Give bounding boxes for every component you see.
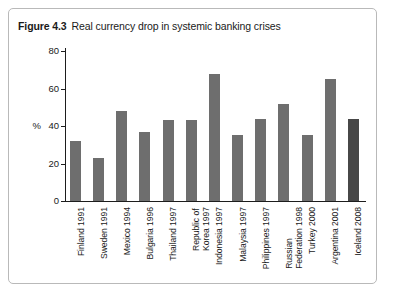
bar: [232, 135, 243, 201]
x-label-slot: Philippines 1997: [250, 205, 273, 283]
bar: [209, 74, 220, 202]
bar-slot: [65, 51, 88, 201]
x-axis-label: Bulgaria 1996: [146, 207, 156, 259]
bar-slot: [343, 51, 366, 201]
y-tick-mark: [61, 201, 65, 202]
bar-slot: [88, 51, 111, 201]
x-axis-labels: Finland 1991Sweden 1991Mexico 1994Bulgar…: [65, 205, 371, 283]
bar: [70, 141, 81, 201]
bar-slot: [273, 51, 296, 201]
figure-frame: Figure 4.3Real currency drop in systemic…: [8, 8, 377, 284]
bar: [116, 111, 127, 201]
bar: [139, 132, 150, 201]
x-axis-label: Finland 1991: [77, 207, 87, 256]
bar-slot: [227, 51, 250, 201]
x-label-slot: Argentina 2001: [320, 205, 343, 283]
bar: [348, 119, 359, 202]
y-tick-label: 40: [48, 121, 59, 131]
x-label-slot: Finland 1991: [65, 205, 88, 283]
x-label-slot: Republic ofKorea 1997: [181, 205, 204, 283]
x-label-slot: Thailand 1997: [158, 205, 181, 283]
x-axis-line: [65, 201, 366, 202]
bar: [163, 120, 174, 201]
figure-title: Real currency drop in systemic banking c…: [72, 20, 281, 32]
x-label-slot: Mexico 1994: [111, 205, 134, 283]
y-tick-label: 20: [48, 159, 59, 169]
y-tick-label: 80: [48, 46, 59, 56]
x-label-slot: Malaysia 1997: [227, 205, 250, 283]
x-axis-label: Indonesia 1997: [215, 207, 225, 265]
x-label-slot: Sweden 1991: [88, 205, 111, 283]
bar-slot: [134, 51, 157, 201]
x-axis-label: Thailand 1997: [169, 207, 179, 261]
x-axis-label: Philippines 1997: [262, 207, 272, 269]
x-label-slot: RussianFederation 1998: [273, 205, 296, 283]
x-axis-label: Sweden 1991: [100, 207, 110, 259]
bar: [325, 79, 336, 201]
bar-slot: [297, 51, 320, 201]
x-label-slot: Indonesia 1997: [204, 205, 227, 283]
y-axis-unit-label: %: [33, 121, 41, 131]
bar: [278, 104, 289, 202]
figure-caption: Figure 4.3Real currency drop in systemic…: [18, 20, 281, 33]
x-label-slot: Bulgaria 1996: [134, 205, 157, 283]
figure-number: Figure 4.3: [18, 20, 67, 32]
x-label-slot: Turkey 2000: [297, 205, 320, 283]
bar: [186, 120, 197, 201]
x-label-slot: Iceland 2008: [343, 205, 366, 283]
bar: [93, 158, 104, 201]
bar-slot: [111, 51, 134, 201]
x-axis-label: Mexico 1994: [123, 207, 133, 255]
bar-slot: [181, 51, 204, 201]
bar-slot: [158, 51, 181, 201]
x-axis-label: Iceland 2008: [354, 207, 364, 256]
x-axis-label: Malaysia 1997: [239, 207, 249, 262]
bar-series: [65, 51, 366, 201]
x-axis-label: Argentina 2001: [331, 207, 341, 265]
bar: [302, 135, 313, 201]
y-tick-label: 60: [48, 84, 59, 94]
bar: [255, 119, 266, 202]
chart-plot-area: 02040%6080: [65, 51, 371, 201]
bar-slot: [250, 51, 273, 201]
y-tick-label: 0: [54, 196, 59, 206]
bar-slot: [320, 51, 343, 201]
bar-slot: [204, 51, 227, 201]
x-axis-label: Turkey 2000: [308, 207, 318, 254]
